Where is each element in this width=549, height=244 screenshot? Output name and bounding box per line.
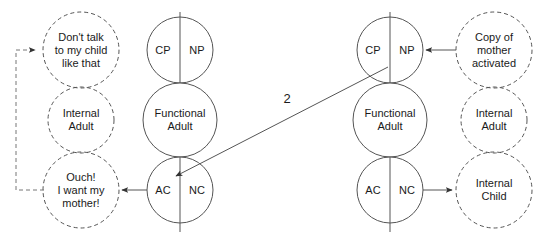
arrow-ouch-feedback-to-dont-talk (16, 50, 44, 190)
right-person-cp-label: CP (365, 44, 380, 56)
transaction-number-label: 2 (283, 91, 290, 106)
left-internal-adult-line-2: Adult (68, 120, 93, 132)
left-person-cp-label: CP (155, 44, 170, 56)
left-internal-parent-line-1: Don't talk (58, 31, 104, 43)
right-person-np-label: NP (399, 44, 414, 56)
right-person-child-circle: AC NC (357, 157, 423, 223)
transactional-analysis-diagram: Don't talk to my child like that Interna… (0, 0, 549, 244)
left-internal-parent-line-3: like that (62, 57, 100, 69)
left-person-ac-label: AC (155, 184, 170, 196)
right-internal-parent-bubble: Copy of mother activated (456, 12, 532, 88)
right-internal-parent-line-3: activated (472, 57, 516, 69)
right-person-parent-circle: CP NP (357, 17, 423, 83)
right-internal-adult-bubble: Internal Adult (461, 87, 527, 153)
left-person-parent-circle: CP NP (147, 17, 213, 83)
left-person-nc-label: NC (189, 184, 205, 196)
right-internal-parent-line-1: Copy of (475, 31, 514, 43)
left-internal-child-line-2: I want my (57, 184, 105, 196)
left-person-adult-line-1: Functional (155, 107, 206, 119)
right-person-ac-label: AC (365, 184, 380, 196)
left-internal-column: Don't talk to my child like that Interna… (43, 12, 119, 228)
right-person-adult-circle: Functional Adult (353, 83, 427, 157)
right-person-column: CP NP Functional Adult AC NC (353, 12, 427, 232)
right-person-nc-label: NC (399, 184, 415, 196)
diagram-canvas: Don't talk to my child like that Interna… (0, 0, 549, 244)
right-internal-child-line-2: Child (481, 190, 506, 202)
left-person-adult-line-2: Adult (167, 120, 192, 132)
left-internal-adult-line-1: Internal (63, 107, 100, 119)
left-internal-parent-line-2: to my child (55, 44, 108, 56)
right-internal-adult-line-2: Adult (481, 120, 506, 132)
left-internal-child-line-1: Ouch! (66, 171, 95, 183)
right-person-adult-line-1: Functional (365, 107, 416, 119)
left-person-column: CP NP Functional Adult AC NC (143, 12, 217, 232)
left-internal-parent-bubble: Don't talk to my child like that (43, 12, 119, 88)
right-internal-adult-line-1: Internal (476, 107, 513, 119)
right-internal-parent-line-2: mother (477, 44, 512, 56)
left-internal-child-bubble: Ouch! I want my mother! (43, 152, 119, 228)
left-person-child-circle: AC NC (147, 157, 213, 223)
right-internal-child-line-1: Internal (476, 177, 513, 189)
left-internal-child-line-3: mother! (62, 197, 99, 209)
right-internal-child-bubble: Internal Child (456, 152, 532, 228)
left-person-adult-circle: Functional Adult (143, 83, 217, 157)
left-person-np-label: NP (189, 44, 204, 56)
right-internal-column: Copy of mother activated Internal Adult … (456, 12, 532, 228)
left-internal-adult-bubble: Internal Adult (48, 87, 114, 153)
right-person-adult-line-2: Adult (377, 120, 402, 132)
